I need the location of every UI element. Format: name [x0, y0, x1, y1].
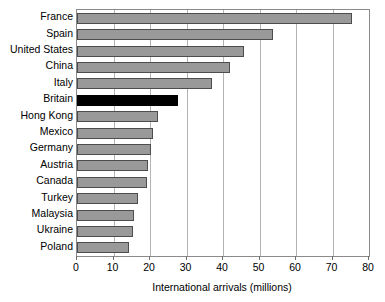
category-label: Germany [0, 142, 73, 153]
x-axis: 01020304050607080 [76, 256, 368, 278]
bars-layer [77, 10, 369, 256]
x-tick-mark [295, 256, 296, 260]
x-tick-mark [113, 256, 114, 260]
bar [77, 29, 273, 40]
bar [77, 13, 352, 24]
category-label: Malaysia [0, 208, 73, 219]
category-label: Mexico [0, 126, 73, 137]
bar [77, 177, 147, 188]
category-label: Canada [0, 175, 73, 186]
bar [77, 193, 138, 204]
bar [77, 78, 212, 89]
bar [77, 46, 244, 57]
category-label: Hong Kong [0, 110, 73, 121]
bar [77, 210, 134, 221]
plot-area [76, 9, 370, 257]
x-tick-label: 50 [244, 261, 274, 273]
category-label: China [0, 60, 73, 71]
bar [77, 160, 148, 171]
category-axis: FranceSpainUnited StatesChinaItalyBritai… [0, 9, 73, 255]
bar [77, 111, 158, 122]
x-tick-mark [76, 256, 77, 260]
category-label: Turkey [0, 192, 73, 203]
x-axis-title: International arrivals (millions) [76, 281, 368, 294]
x-tick-label: 30 [171, 261, 201, 273]
bar [77, 144, 151, 155]
x-tick-mark [368, 256, 369, 260]
bar [77, 242, 129, 253]
x-tick-mark [259, 256, 260, 260]
x-tick-mark [186, 256, 187, 260]
x-tick-label: 0 [61, 261, 91, 273]
bar [77, 128, 153, 139]
bar-chart: FranceSpainUnited StatesChinaItalyBritai… [0, 0, 385, 302]
bar [77, 95, 178, 106]
x-tick-label: 10 [98, 261, 128, 273]
x-tick-label: 80 [353, 261, 383, 273]
x-tick-label: 60 [280, 261, 310, 273]
bar [77, 62, 230, 73]
category-label: Austria [0, 159, 73, 170]
x-tick-label: 40 [207, 261, 237, 273]
x-tick-mark [149, 256, 150, 260]
x-tick-label: 20 [134, 261, 164, 273]
category-label: Poland [0, 241, 73, 252]
category-label: France [0, 11, 73, 22]
x-tick-mark [222, 256, 223, 260]
category-label: Britain [0, 93, 73, 104]
category-label: United States [0, 44, 73, 55]
category-label: Spain [0, 28, 73, 39]
x-tick-mark [332, 256, 333, 260]
x-tick-label: 70 [317, 261, 347, 273]
bar [77, 226, 133, 237]
category-label: Italy [0, 77, 73, 88]
category-label: Ukraine [0, 224, 73, 235]
